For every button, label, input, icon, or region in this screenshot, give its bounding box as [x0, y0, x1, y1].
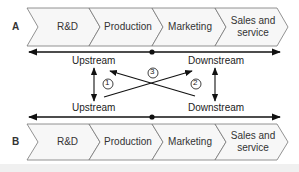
label-upstream-top: Upstream	[72, 55, 115, 66]
label-downstream-bottom: Downstream	[188, 102, 244, 113]
segment-b-sales-line2: service	[237, 142, 269, 153]
bottom-center-dot	[149, 114, 154, 119]
value-chain-diagram: A B R&D Production Marketing Sales and s…	[0, 0, 299, 172]
segment-a-sales-label: Sales and service	[224, 15, 282, 39]
segment-b-marketing-label: Marketing	[160, 136, 220, 148]
marker-1-number: 1	[105, 78, 109, 87]
segment-b-sales-line1: Sales and	[231, 130, 275, 141]
segment-a-sales-line2: service	[237, 27, 269, 38]
label-upstream-bottom: Upstream	[72, 102, 115, 113]
segment-a-sales-line1: Sales and	[231, 15, 275, 26]
label-downstream-top: Downstream	[188, 55, 244, 66]
top-center-dot	[149, 49, 154, 54]
marker-2-number: 2	[193, 78, 197, 87]
footer-band	[0, 164, 299, 172]
segment-b-production-label: Production	[98, 136, 158, 148]
row-a-letter: A	[12, 21, 19, 32]
top-axis-arrow	[29, 49, 280, 54]
segment-b-rd-label: R&D	[40, 136, 95, 148]
bottom-axis-arrow	[29, 114, 280, 119]
segment-b-sales-label: Sales and service	[224, 130, 282, 154]
segment-a-production-label: Production	[98, 21, 158, 33]
row-b-letter: B	[12, 136, 19, 147]
segment-a-rd-label: R&D	[40, 21, 95, 33]
segment-a-marketing-label: Marketing	[160, 21, 220, 33]
marker-3-number: 3	[150, 67, 154, 76]
